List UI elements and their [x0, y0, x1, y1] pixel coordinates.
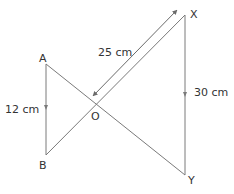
similar-triangles-diagram: A B X Y O 12 cm 30 cm 25 cm [0, 0, 234, 194]
segment-ay [46, 64, 185, 175]
measurement-label-ab: 12 cm [5, 103, 39, 116]
measurement-label-xy: 30 cm [194, 86, 228, 99]
point-label-a: A [39, 52, 47, 65]
point-label-y: Y [187, 174, 195, 187]
point-label-o: O [91, 110, 100, 123]
segment-bx [46, 15, 185, 155]
arrow-down-icon [44, 105, 48, 110]
arrow-down-icon [183, 92, 187, 97]
measurement-label-ox: 25 cm [98, 46, 132, 59]
point-label-b: B [39, 159, 47, 172]
point-label-x: X [190, 8, 198, 21]
